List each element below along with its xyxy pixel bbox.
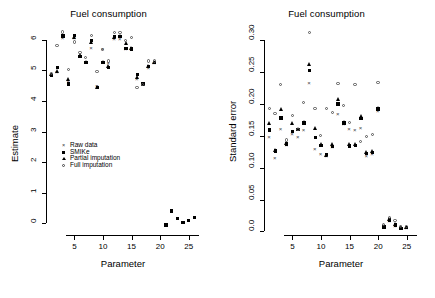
data-point-square [181, 221, 184, 224]
data-point-triangle [313, 126, 317, 130]
panel-right-standard-error: Fuel consumption 0.00.050.100.150.200.25… [218, 0, 435, 298]
data-point-circle [393, 219, 396, 222]
data-point-cross: × [347, 127, 351, 131]
data-point-square [67, 82, 70, 85]
y-tick [260, 104, 264, 105]
x-tick-label: 15 [125, 242, 139, 251]
x-axis-label-left: Parameter [47, 258, 199, 269]
panel-left-estimate: Fuel consumption 0123456510152025×××××××… [0, 0, 217, 298]
y-axis-line [264, 40, 265, 231]
data-point-triangle [302, 120, 306, 124]
x-tick-label: 20 [153, 242, 167, 251]
x-tick [378, 236, 379, 240]
data-point-circle [279, 83, 282, 86]
plot-area-right: 0.00.050.100.150.200.250.30510152025××××… [265, 26, 417, 234]
x-axis-line [66, 235, 198, 236]
data-point-triangle [324, 153, 328, 157]
x-tick-label: 5 [285, 242, 299, 251]
data-point-cross: × [279, 127, 283, 131]
data-point-triangle [118, 34, 122, 38]
x-tick [292, 236, 293, 240]
y-tick [42, 70, 46, 71]
y-tick [42, 132, 46, 133]
data-point-triangle [359, 114, 363, 118]
data-point-triangle [290, 121, 294, 125]
data-point-cross: × [296, 135, 300, 139]
plot-area-left: 0123456510152025××××××××××××××××××× [47, 26, 199, 234]
data-point-triangle [284, 141, 288, 145]
x-tick-label: 10 [314, 242, 328, 251]
x-tick [132, 236, 133, 240]
data-point-circle [376, 81, 379, 84]
data-point-triangle [135, 75, 139, 79]
y-tick [42, 162, 46, 163]
data-point-cross: × [319, 152, 323, 156]
data-point-circle [73, 40, 76, 43]
data-point-circle [359, 140, 362, 143]
y-tick [260, 200, 264, 201]
data-point-triangle [72, 35, 76, 39]
data-point-cross: × [89, 46, 93, 50]
data-point-circle [285, 138, 288, 141]
figure-two-panel-scatter: Fuel consumption 0123456510152025×××××××… [0, 0, 435, 298]
data-point-circle [78, 51, 81, 54]
data-point-triangle [393, 222, 397, 226]
data-point-circle [273, 112, 276, 115]
data-point-square [193, 216, 196, 219]
data-point-triangle [319, 142, 323, 146]
data-point-cross: × [267, 135, 271, 139]
panel-left-title: Fuel consumption [0, 8, 217, 19]
data-point-circle [371, 133, 374, 136]
data-point-triangle [353, 142, 357, 146]
legend-label: Full imputation [70, 162, 112, 169]
data-point-triangle [279, 107, 283, 111]
data-point-circle [55, 44, 58, 47]
data-point-triangle [129, 46, 133, 50]
data-point-circle [90, 34, 93, 37]
data-point-circle [291, 114, 294, 117]
data-point-triangle [66, 77, 70, 81]
data-point-circle [61, 30, 64, 33]
legend-filled-triangle-icon [62, 157, 66, 160]
y-tick [260, 231, 264, 232]
data-point-triangle [84, 60, 88, 64]
x-tick-label: 15 [343, 242, 357, 251]
data-point-circle [95, 70, 98, 73]
data-point-circle [153, 59, 156, 62]
data-point-circle [348, 121, 351, 124]
x-axis-label-right: Parameter [265, 258, 417, 269]
data-point-cross: × [353, 128, 357, 132]
data-point-square [291, 130, 294, 133]
data-point-square [279, 116, 282, 119]
data-point-circle [353, 83, 356, 86]
data-point-triangle [55, 69, 59, 73]
y-tick [260, 136, 264, 137]
y-tick [42, 223, 46, 224]
data-point-cross: × [307, 81, 311, 85]
data-point-square [176, 217, 179, 220]
data-point-circle [405, 225, 408, 228]
data-point-triangle [106, 64, 110, 68]
y-axis-label-left: Estimate [9, 125, 20, 162]
data-point-circle [113, 31, 116, 34]
data-point-circle [147, 59, 150, 62]
data-point-cross: × [336, 112, 340, 116]
data-point-triangle [89, 40, 93, 44]
data-point-triangle [370, 149, 374, 153]
x-tick-label: 5 [67, 242, 81, 251]
data-point-triangle [112, 35, 116, 39]
panel-right-title: Fuel consumption [218, 8, 435, 19]
data-point-circle [336, 82, 339, 85]
legend-filled-square-icon [62, 151, 65, 154]
data-point-triangle [95, 85, 99, 89]
data-point-square [314, 136, 317, 139]
data-point-square [268, 128, 271, 131]
data-point-circle [302, 101, 305, 104]
data-point-circle [342, 104, 345, 107]
y-axis-line [46, 40, 47, 224]
data-point-circle [107, 59, 110, 62]
y-tick [260, 72, 264, 73]
data-point-triangle [347, 142, 351, 146]
data-point-circle [296, 128, 299, 131]
legend-cross-x-icon: × [62, 143, 65, 149]
